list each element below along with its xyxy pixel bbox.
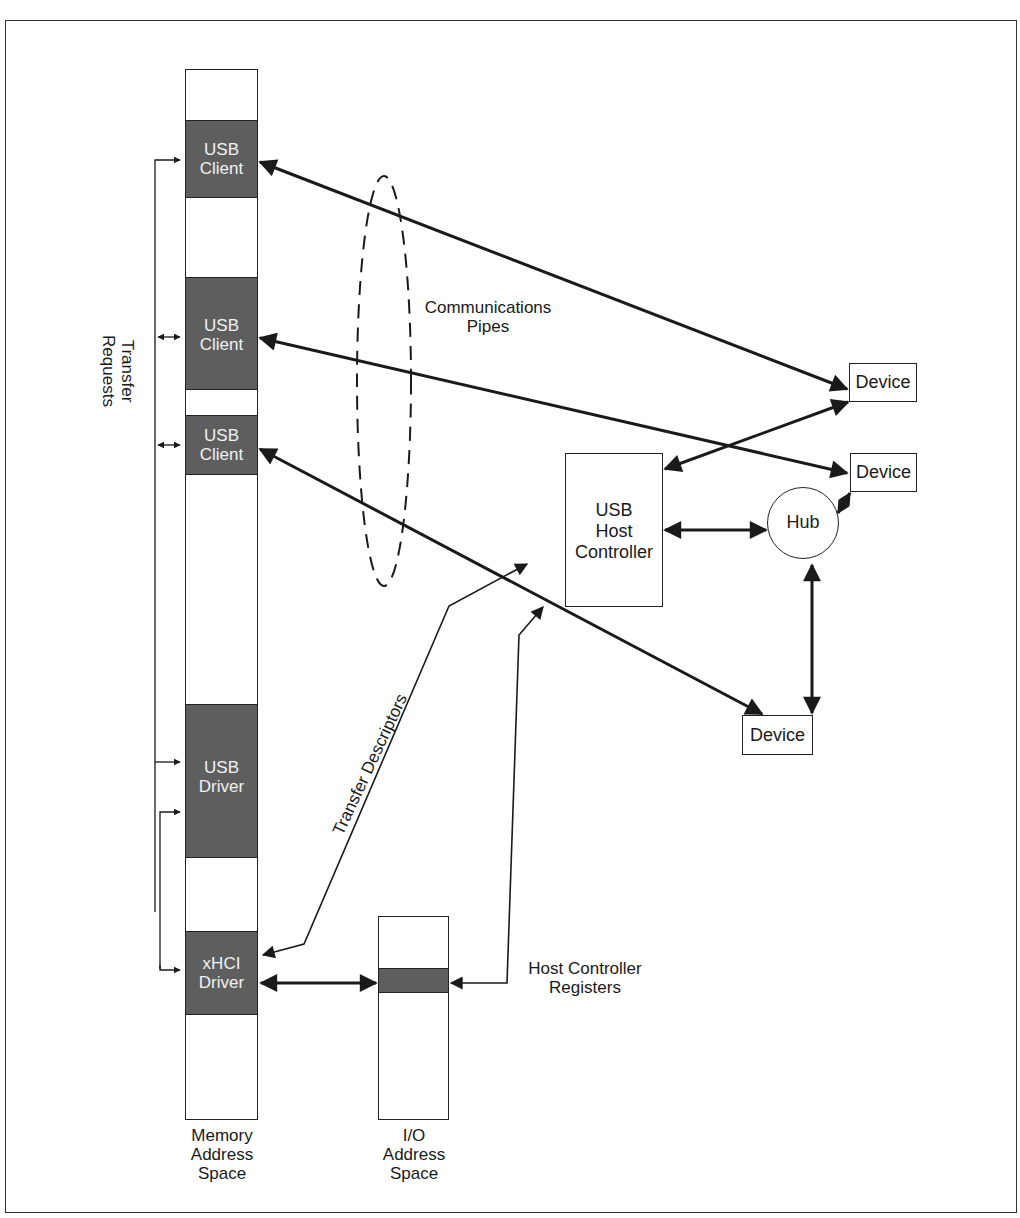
communications-pipes <box>260 162 847 714</box>
connector-layer <box>0 0 1020 1218</box>
communications-pipes-label: Communications Pipes <box>408 298 568 336</box>
host-controller-registers-line <box>451 607 543 983</box>
host-controller-links <box>665 402 850 713</box>
transfer-requests-label: Transfer Requests <box>99 321 137 421</box>
communications-pipes-ellipse <box>357 176 411 586</box>
transfer-requests-bracket <box>155 160 180 970</box>
host-controller-registers-label: Host Controller Registers <box>510 959 660 997</box>
transfer-descriptors-line <box>263 564 527 955</box>
